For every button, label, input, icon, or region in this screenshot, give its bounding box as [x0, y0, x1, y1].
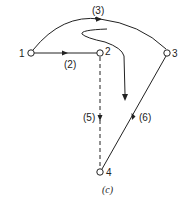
edge-label-3: (3): [92, 5, 104, 16]
node-2: 2: [97, 46, 111, 57]
edge-6: (6): [102, 56, 166, 169]
figure-caption: (c): [102, 184, 114, 196]
node-label-1: 1: [19, 48, 25, 59]
edge-label-6: (6): [139, 112, 151, 123]
edge-label-2: (2): [64, 59, 76, 70]
flow-path: [82, 29, 128, 101]
node-3: 3: [164, 48, 178, 59]
arrow-icon: [96, 17, 102, 22]
node-label-4: 4: [106, 167, 112, 178]
arrow-icon: [62, 51, 68, 56]
node-label-3: 3: [172, 48, 178, 59]
arrow-icon: [122, 94, 128, 101]
node-1: 1: [19, 48, 34, 59]
edge-5: (5): [83, 57, 103, 169]
node-4: 4: [97, 167, 112, 178]
edge-2: (2): [34, 51, 97, 71]
arrow-icon: [98, 115, 103, 121]
edge-3: (3): [33, 5, 166, 50]
network-diagram: (3) (2) (5) (6) 1: [0, 0, 180, 200]
node-label-2: 2: [105, 46, 111, 57]
edge-label-5: (5): [83, 112, 95, 123]
diagram-svg: (3) (2) (5) (6) 1: [0, 0, 180, 200]
